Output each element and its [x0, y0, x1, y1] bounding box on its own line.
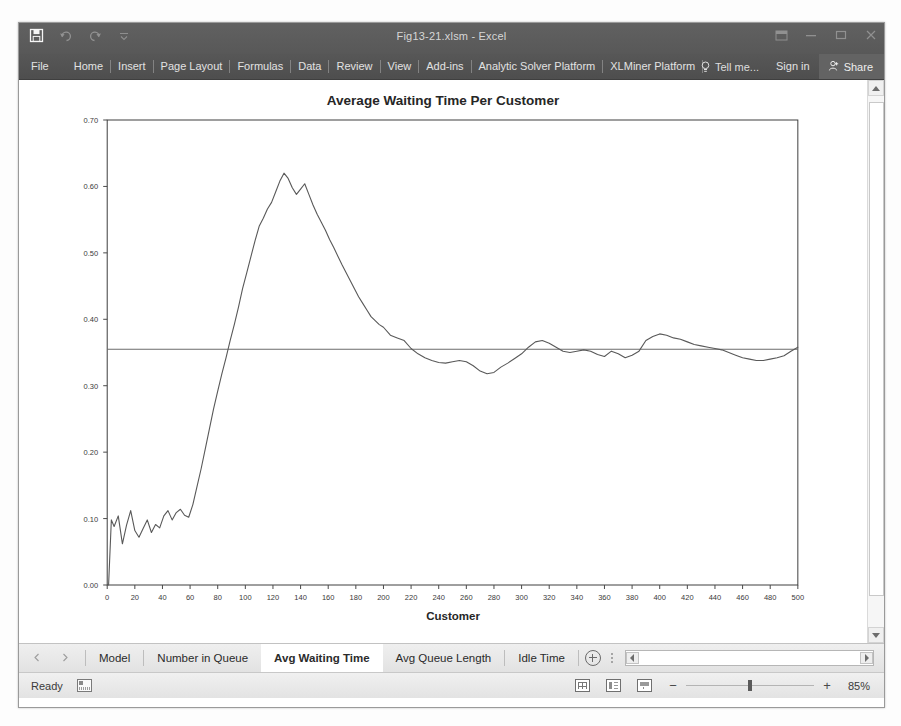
svg-text:260: 260 — [460, 593, 473, 602]
minimize-icon[interactable] — [804, 28, 818, 42]
sheet-tab-idle-time[interactable]: Idle Time — [505, 645, 578, 672]
ribbon-tab-data[interactable]: Data — [291, 54, 328, 79]
svg-text:240: 240 — [432, 593, 445, 602]
scroll-down-button[interactable] — [868, 627, 884, 643]
zoom-level-label[interactable]: 85% — [840, 680, 870, 692]
chart-title: Average Waiting Time Per Customer — [327, 93, 560, 108]
svg-text:500: 500 — [792, 593, 805, 602]
zoom-slider-thumb[interactable] — [748, 680, 752, 691]
svg-text:220: 220 — [405, 593, 418, 602]
svg-text:80: 80 — [214, 593, 222, 602]
scroll-right-button[interactable] — [860, 652, 873, 664]
person-add-icon — [828, 60, 840, 74]
svg-text:300: 300 — [515, 593, 528, 602]
status-left-group: Ready — [19, 679, 92, 692]
restore-icon[interactable] — [834, 28, 848, 42]
lightbulb-icon — [701, 61, 710, 73]
svg-text:140: 140 — [294, 593, 307, 602]
sheet-tab-avg-waiting-time[interactable]: Avg Waiting Time — [261, 644, 382, 672]
svg-text:100: 100 — [239, 593, 252, 602]
ribbon-tab-add-ins[interactable]: Add-ins — [419, 54, 470, 79]
sheet-tab-bar: Model Number in Queue Avg Waiting Time A… — [19, 643, 884, 672]
tab-overflow-handle[interactable] — [607, 651, 617, 665]
zoom-out-button[interactable]: − — [668, 681, 678, 691]
vertical-scrollbar[interactable] — [867, 80, 884, 643]
svg-text:440: 440 — [709, 593, 722, 602]
ribbon-separator — [229, 60, 230, 73]
next-sheet-icon[interactable] — [61, 653, 69, 664]
share-button[interactable]: Share — [819, 54, 884, 79]
close-icon[interactable] — [864, 28, 878, 42]
excel-window: Fig13-21.xlsm - Excel — [18, 22, 885, 708]
sheet-tab-number-in-queue[interactable]: Number in Queue — [144, 645, 261, 672]
scroll-left-button[interactable] — [626, 652, 639, 664]
share-label: Share — [844, 61, 873, 73]
zoom-slider-track[interactable] — [686, 685, 814, 686]
svg-text:320: 320 — [543, 593, 556, 602]
triangle-left-icon — [630, 654, 634, 662]
normal-view-icon[interactable] — [575, 679, 590, 692]
zoom-control: − + 85% — [668, 680, 870, 692]
ribbon-tab-page-layout[interactable]: Page Layout — [154, 54, 230, 79]
status-bar: Ready − + 85% — [19, 672, 884, 698]
status-mode-label: Ready — [31, 680, 63, 692]
zoom-in-button[interactable]: + — [822, 681, 832, 691]
x-axis-title: Customer — [426, 610, 480, 622]
ribbon-tab-formulas[interactable]: Formulas — [230, 54, 290, 79]
plus-circle-icon — [585, 650, 601, 666]
svg-text:120: 120 — [267, 593, 280, 602]
svg-text:0.50: 0.50 — [84, 249, 99, 258]
ribbon-tab-strip: File Home Insert Page Layout Formulas Da… — [19, 54, 884, 79]
svg-text:380: 380 — [626, 593, 639, 602]
tell-me-box[interactable]: Tell me... — [693, 54, 767, 79]
svg-text:0.70: 0.70 — [84, 116, 99, 125]
svg-text:360: 360 — [598, 593, 611, 602]
sheet-tab-avg-queue-length[interactable]: Avg Queue Length — [383, 645, 505, 672]
svg-text:480: 480 — [764, 593, 777, 602]
window-title: Fig13-21.xlsm - Excel — [19, 30, 884, 42]
ribbon-tab-review[interactable]: Review — [329, 54, 379, 79]
ribbon-separator — [290, 60, 291, 73]
record-macro-icon[interactable] — [77, 679, 92, 692]
svg-text:0: 0 — [105, 593, 109, 602]
svg-text:20: 20 — [131, 593, 139, 602]
page-break-preview-icon[interactable] — [637, 679, 652, 692]
ribbon-tab-xlminer-platform[interactable]: XLMiner Platform — [603, 54, 702, 79]
window-controls — [774, 28, 878, 42]
svg-text:0.40: 0.40 — [84, 315, 99, 324]
svg-text:200: 200 — [377, 593, 390, 602]
ribbon-tab-analytic-solver-platform[interactable]: Analytic Solver Platform — [472, 54, 603, 79]
ribbon-tab-insert[interactable]: Insert — [111, 54, 153, 79]
svg-text:0.20: 0.20 — [84, 448, 99, 457]
waiting-time-chart: Average Waiting Time Per Customer 0.000.… — [19, 80, 868, 643]
add-sheet-button[interactable] — [579, 645, 607, 672]
svg-text:420: 420 — [681, 593, 694, 602]
svg-text:0.10: 0.10 — [84, 515, 99, 524]
ribbon-tab-view[interactable]: View — [381, 54, 419, 79]
chart-canvas[interactable]: Average Waiting Time Per Customer 0.000.… — [19, 80, 868, 643]
triangle-up-icon — [872, 86, 880, 91]
horizontal-scrollbar[interactable] — [625, 650, 874, 666]
svg-text:340: 340 — [571, 593, 584, 602]
sign-in-button[interactable]: Sign in — [767, 54, 819, 79]
sheet-nav-buttons — [19, 653, 85, 664]
title-bar: Fig13-21.xlsm - Excel — [19, 23, 884, 54]
scroll-up-button[interactable] — [868, 80, 884, 96]
status-right-group: − + 85% — [575, 679, 884, 692]
ribbon-tab-home[interactable]: Home — [67, 54, 110, 79]
svg-text:460: 460 — [736, 593, 749, 602]
ribbon-right-cluster: Tell me... Sign in Share — [693, 54, 884, 79]
triangle-right-icon — [865, 654, 869, 662]
ribbon-tab-file[interactable]: File — [19, 54, 67, 79]
sheet-tab-model[interactable]: Model — [86, 645, 143, 672]
ribbon-display-options-icon[interactable] — [774, 28, 788, 42]
svg-text:0.30: 0.30 — [84, 382, 99, 391]
svg-text:280: 280 — [488, 593, 501, 602]
screenshot-root: Fig13-21.xlsm - Excel — [0, 0, 901, 726]
page-layout-view-icon[interactable] — [606, 679, 621, 692]
ribbon-separator — [328, 60, 329, 73]
previous-sheet-icon[interactable] — [33, 653, 41, 664]
chart-sheet-area: Average Waiting Time Per Customer 0.000.… — [19, 79, 884, 643]
vertical-scrollbar-thumb[interactable] — [869, 102, 884, 596]
tell-me-label: Tell me... — [715, 61, 759, 73]
